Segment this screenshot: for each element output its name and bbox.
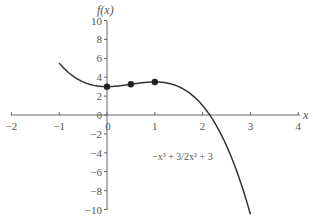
y-tick-label: −10 (85, 204, 103, 216)
x-tick-label: 0 (105, 120, 111, 132)
x-axis-title: x (302, 108, 309, 122)
y-tick-label: −8 (90, 185, 102, 197)
y-tick-label: −4 (90, 147, 102, 159)
function-curve (59, 63, 250, 214)
x-tick-label: −2 (6, 120, 18, 132)
x-tick-label: 1 (152, 120, 158, 132)
y-tick-label: −6 (90, 166, 102, 178)
y-axis-title: f(x) (97, 3, 114, 17)
function-plot: −2−112340 1086420−2−4−6−8−10 x f(x) −x³ … (0, 0, 313, 222)
y-tick-label: 6 (97, 52, 103, 64)
x-tick-label: −1 (53, 120, 65, 132)
data-point-marker (104, 83, 110, 89)
function-annotation: −x³ + 3/2x² + 3 (152, 151, 213, 162)
y-tick-label: 2 (97, 90, 103, 102)
highlighted-points (104, 79, 158, 90)
x-tick-label: 2 (200, 120, 206, 132)
y-tick-label: 4 (97, 71, 103, 83)
y-tick-label: 8 (97, 33, 103, 45)
y-tick-label: −2 (90, 128, 102, 140)
x-tick-label: 3 (248, 120, 254, 132)
data-point-marker (128, 81, 134, 87)
y-tick-label: 0 (97, 109, 103, 121)
data-point-marker (152, 79, 158, 85)
x-tick-label: 4 (295, 120, 301, 132)
